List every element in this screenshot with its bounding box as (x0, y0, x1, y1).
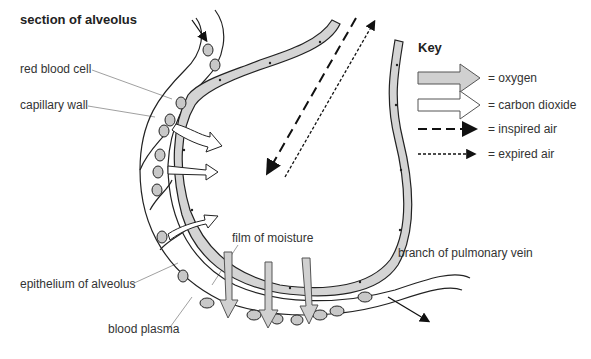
blood-outflow-arrow (388, 297, 428, 321)
key-title: Key (418, 40, 442, 55)
label-film-of-moisture: film of moisture (232, 231, 313, 245)
key-symbols (418, 64, 480, 154)
key-label-carbon-dioxide: = carbon dioxide (488, 98, 576, 112)
key-label-expired-air: = expired air (488, 147, 554, 161)
label-epithelium: epithelium of alveolus (20, 277, 135, 291)
key-label-oxygen: = oxygen (488, 71, 537, 85)
oxygen-key-arrow (418, 64, 480, 92)
carbon-dioxide-key-arrow (418, 91, 480, 119)
label-capillary-wall: capillary wall (20, 98, 88, 112)
label-pulmonary-vein: branch of pulmonary vein (398, 246, 533, 260)
label-red-blood-cell: red blood cell (20, 62, 91, 76)
alveolus-diagram (0, 0, 591, 359)
key-label-inspired-air: = inspired air (488, 122, 557, 136)
label-blood-plasma: blood plasma (108, 322, 179, 336)
alveolus-wall (174, 20, 411, 296)
